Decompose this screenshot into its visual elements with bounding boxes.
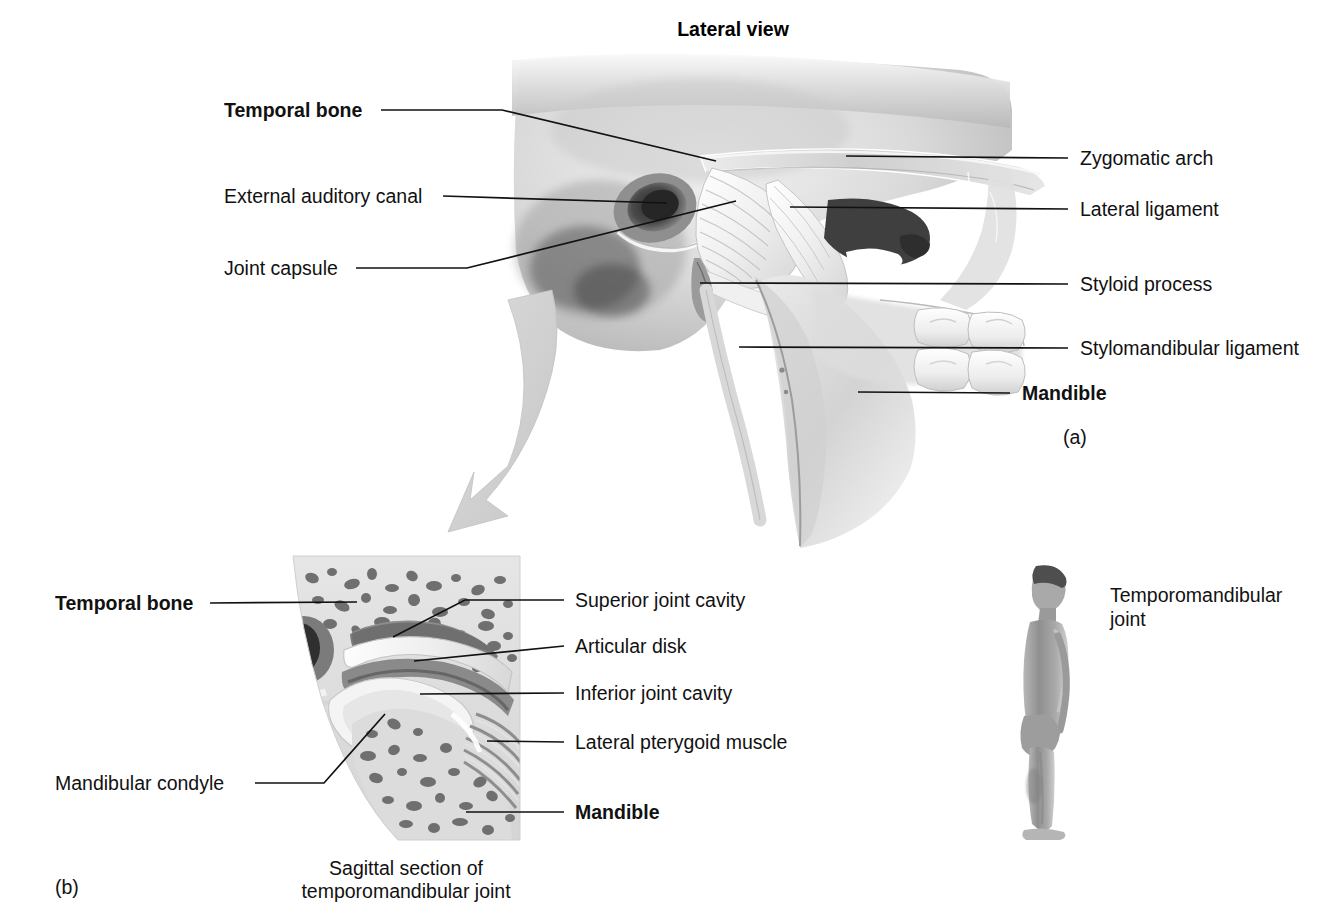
panel-b-caption-line1: Sagittal section of (329, 856, 483, 880)
body-orientation-figure (1020, 565, 1068, 840)
label-stylomandibular-ligament: Stylomandibular ligament (1080, 337, 1299, 361)
leader-external-auditory-canal (443, 196, 667, 203)
panel-a-illustration (512, 53, 1046, 548)
orientation-label-line1: Temporomandibular (1110, 584, 1282, 608)
leader-stylomandibular-ligament (739, 347, 1068, 348)
figure-canvas: Lateral view Temporal bone External audi… (0, 0, 1336, 920)
label-mandible-b: Mandible (575, 801, 660, 825)
leader-lines-panel-b-right (393, 600, 564, 812)
panel-a-marker: (a) (1063, 426, 1087, 449)
label-temporal-bone-a: Temporal bone (224, 99, 362, 123)
label-joint-capsule: Joint capsule (224, 257, 338, 281)
panel-b-caption-line2: temporomandibular joint (301, 879, 510, 903)
leader-mandibular-condyle (255, 714, 385, 783)
label-mandible-a: Mandible (1022, 382, 1107, 406)
label-inferior-joint-cavity: Inferior joint cavity (575, 682, 732, 706)
leader-styloid-process (700, 283, 1068, 284)
leader-zygomatic-arch (846, 156, 1068, 158)
leader-lines-panel-b-left (210, 602, 385, 783)
magnification-arrow (448, 290, 557, 532)
label-temporal-bone-b: Temporal bone (55, 592, 193, 616)
leader-articular-disk (414, 646, 564, 661)
label-external-auditory-canal: External auditory canal (224, 185, 422, 209)
label-superior-joint-cavity: Superior joint cavity (575, 589, 745, 613)
leader-mandible-a (858, 392, 1010, 393)
panel-b-illustration (272, 552, 526, 844)
leader-temporal-bone-b (210, 602, 357, 603)
leader-lines-panel-a-right (700, 156, 1068, 393)
label-articular-disk: Articular disk (575, 635, 687, 659)
leader-lateral-ligament (790, 207, 1068, 209)
leader-inferior-joint-cavity (420, 693, 564, 694)
orientation-label-line2: joint (1110, 608, 1146, 632)
figure-title: Lateral view (677, 18, 789, 41)
panel-b-marker: (b) (55, 876, 79, 899)
label-zygomatic-arch: Zygomatic arch (1080, 147, 1213, 171)
label-lateral-pterygoid-muscle: Lateral pterygoid muscle (575, 731, 787, 755)
leader-joint-capsule (356, 201, 736, 268)
leader-temporal-bone-a (381, 110, 716, 161)
label-mandibular-condyle: Mandibular condyle (55, 772, 224, 796)
leader-lateral-pterygoid-muscle (487, 741, 564, 742)
label-lateral-ligament: Lateral ligament (1080, 198, 1219, 222)
label-styloid-process: Styloid process (1080, 273, 1212, 297)
leader-superior-joint-cavity (393, 600, 564, 637)
